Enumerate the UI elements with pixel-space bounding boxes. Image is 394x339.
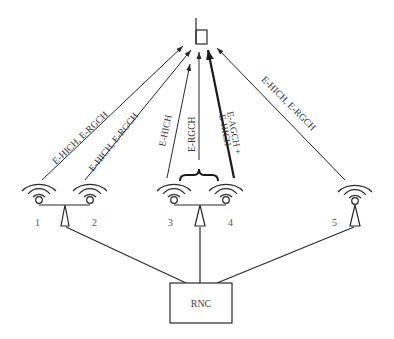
link-label-cell-5: E-HICH, E-RGCH xyxy=(260,74,318,132)
link-cell-1: E-HICH, E-RGCH xyxy=(42,46,183,180)
rnc-link-1-2 xyxy=(66,227,186,283)
antenna-icon-cell-4 xyxy=(209,184,243,203)
cell-number-3: 3 xyxy=(168,217,173,228)
mobile-phone-icon xyxy=(196,18,207,44)
diagram-canvas: E-HICH, E-RGCH E-HICH, E-RGCH E-HICH E-R… xyxy=(0,0,394,339)
rnc-label: RNC xyxy=(191,298,212,309)
antenna-icon-cell-5 xyxy=(338,185,372,204)
base-station-3-4 xyxy=(174,205,226,226)
rnc-link-5 xyxy=(217,227,354,283)
cell-number-5: 5 xyxy=(332,217,337,228)
base-station-5 xyxy=(350,205,360,226)
link-label-cell-3-4: E-RGCH xyxy=(187,117,197,153)
cell-number-2: 2 xyxy=(92,217,97,228)
link-cell-3: E-HICH xyxy=(157,64,190,178)
antenna-icon-cell-1 xyxy=(22,184,56,203)
cell-number-1: 1 xyxy=(35,217,40,228)
cell-number-4: 4 xyxy=(228,217,233,228)
link-label-cell-3: E-HICH xyxy=(157,114,174,148)
brace-icon xyxy=(180,169,218,181)
antenna-icon-cell-2 xyxy=(73,184,107,203)
antenna-icon-cell-3 xyxy=(157,184,191,203)
rnc-box: RNC xyxy=(170,283,232,323)
base-station-1-2 xyxy=(39,205,90,226)
